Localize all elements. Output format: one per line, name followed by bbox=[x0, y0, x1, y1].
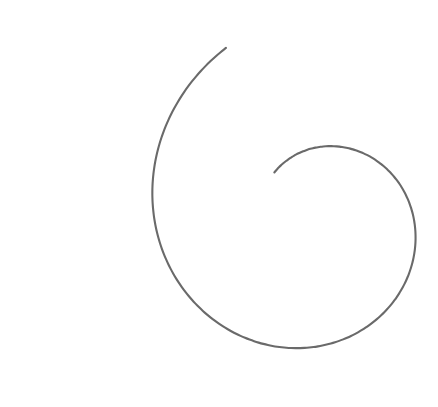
drawing-canvas: Spiral Curve Line Drawing bbox=[0, 0, 438, 407]
spiral-figure: Spiral Curve Line Drawing bbox=[0, 0, 438, 407]
background-rect bbox=[0, 0, 438, 407]
